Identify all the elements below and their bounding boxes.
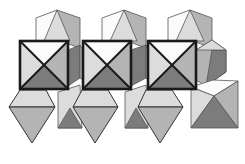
octahedron-apex-2 [83,41,131,89]
octahedron-face [68,45,80,86]
octahedron-upper-face [138,90,183,107]
octahedron-face [131,45,146,86]
octahedron-mid-right-2 [131,45,148,86]
octahedra-diagram [0,0,245,164]
octahedron-apex-1 [20,41,68,89]
octahedron-mid-right-3 [196,40,226,86]
octahedron-low-2 [73,90,118,143]
octahedron-low-3 [138,90,183,143]
lower-octahedra [9,90,183,143]
octahedron-apex-3 [148,41,196,89]
octahedron-mid-right-1 [68,45,83,86]
octahedron-low-1 [9,90,55,143]
polyhedra-figure [0,0,245,164]
apex-view-octahedra [20,41,196,89]
octahedron-lower-face [9,107,55,143]
octahedron-bottom-right [191,80,238,128]
octahedron-upper-face [9,90,55,107]
